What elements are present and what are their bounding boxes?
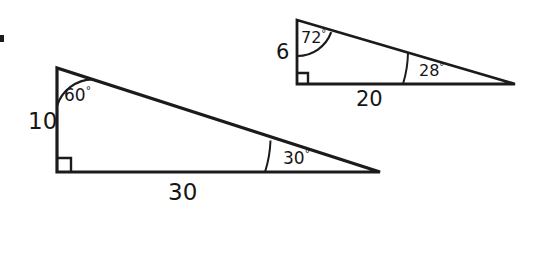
large-triangle-vertical-side-label: 10	[28, 110, 57, 133]
small-triangle-bottom-right-arc	[403, 52, 408, 84]
large-triangle-right-angle-icon	[57, 158, 71, 172]
small-bottom-right-degree-icon: °	[439, 61, 444, 72]
large-triangle-bottom-right-arc	[265, 141, 271, 173]
large-triangle-horizontal-side-label: 30	[168, 181, 197, 204]
diagram-canvas: 10 30 60° 30° 6 20 72° 28°	[0, 0, 533, 255]
large-triangle-bottom-right-angle-label: 30°	[283, 148, 310, 167]
large-apex-angle-value: 60	[64, 85, 86, 105]
large-apex-degree-icon: °	[86, 84, 91, 96]
geometry-figure	[0, 0, 533, 255]
small-apex-angle-value: 72	[301, 28, 321, 47]
small-triangle-vertical-side-label: 6	[276, 42, 289, 63]
large-bottom-right-degree-icon: °	[305, 147, 310, 159]
large-bottom-right-angle-value: 30	[283, 148, 305, 168]
small-triangle-right-angle-icon	[297, 73, 308, 84]
small-bottom-right-angle-value: 28	[419, 61, 439, 80]
small-triangle-horizontal-side-label: 20	[356, 89, 383, 110]
small-triangle-apex-angle-label: 72°	[301, 29, 326, 46]
small-apex-degree-icon: °	[321, 28, 326, 39]
small-right-triangle-shape	[297, 20, 515, 84]
small-triangle-bottom-right-angle-label: 28°	[419, 62, 444, 79]
large-triangle-apex-angle-label: 60°	[64, 85, 91, 104]
